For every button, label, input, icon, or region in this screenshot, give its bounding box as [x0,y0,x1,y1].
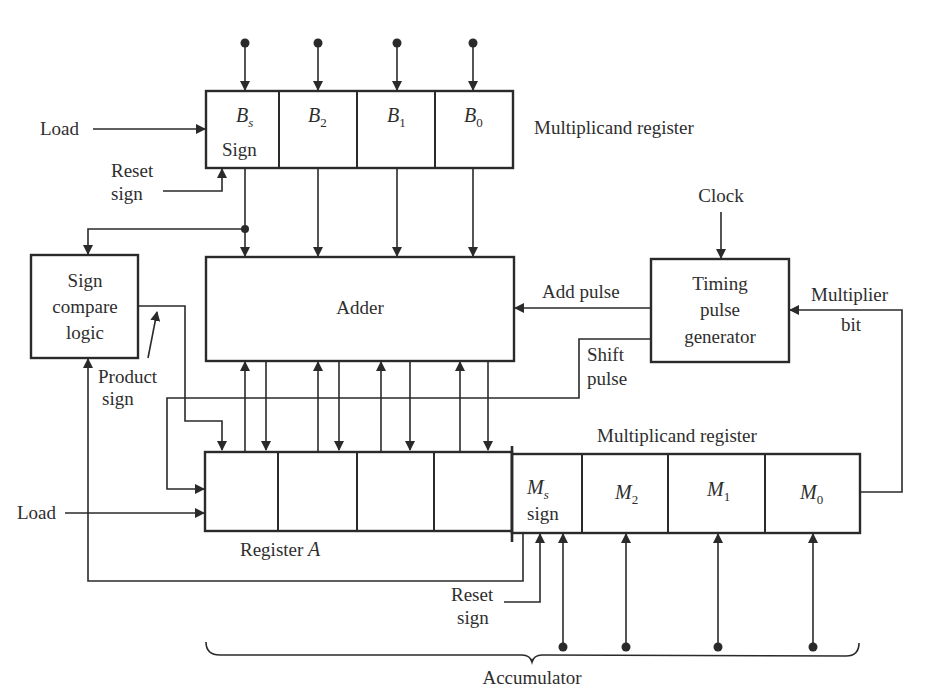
reset-sign-b-label-2: sign [111,183,143,204]
reset-sign-b-label-1: Reset [111,160,154,181]
timing-line1: Timing [692,273,748,294]
clock-label: Clock [698,185,744,206]
register-a-box [205,452,512,531]
sign-compare-line3: logic [66,322,104,343]
add-pulse-label: Add pulse [542,281,620,302]
timing-line3: generator [684,326,756,347]
register-a-label: Register A [240,538,321,560]
register-a: Register A Load [17,452,512,560]
sign-compare-line2: compare [52,296,117,317]
load-a-label: Load [17,502,57,523]
adder-register-a-bus [245,361,488,451]
product-sign-label-2: sign [102,388,134,409]
load-b-label: Load [40,118,80,139]
reset-sign-m-label-1: Reset [451,584,494,605]
reset-sign-b-arrow [163,169,222,191]
multiplier-bit-label-2: bit [841,314,862,335]
input-node-icon [714,643,723,652]
sign-compare-line1: Sign [68,270,103,291]
reset-sign-m-arrow [504,534,540,602]
reset-sign-m-label-2: sign [457,607,489,628]
adder: Adder [206,257,514,361]
register-m-inputs [559,534,818,652]
shift-pulse-label-2: pulse [587,368,627,389]
input-node-icon [809,643,818,652]
product-sign-pointer [148,312,157,358]
cell-bs-sign-label: Sign [222,139,257,160]
register-b: Bs Sign B2 B1 B0 Multiplicand register L… [40,39,695,205]
register-b-label: Multiplicand register [534,117,695,138]
multiplier-block-diagram: Bs Sign B2 B1 B0 Multiplicand register L… [0,0,925,700]
brace-icon [206,642,859,662]
accumulator-label: Accumulator [482,667,582,688]
register-b-inputs [241,39,478,91]
shift-pulse-label-1: Shift [587,344,625,365]
input-node-icon [622,643,631,652]
input-node-icon [559,643,568,652]
timing-line2: pulse [700,299,740,320]
product-sign-label-1: Product [98,366,158,387]
register-m-label: Multiplicand register [597,425,758,446]
cell-ms-sign-label: sign [527,503,559,524]
multiplier-bit-label-1: Multiplier [811,284,889,305]
b-to-adder-lines [88,168,473,256]
adder-label: Adder [336,297,384,318]
sign-compare-logic: Sign compare logic Product sign [31,255,222,450]
accumulator-brace: Accumulator [206,642,859,688]
